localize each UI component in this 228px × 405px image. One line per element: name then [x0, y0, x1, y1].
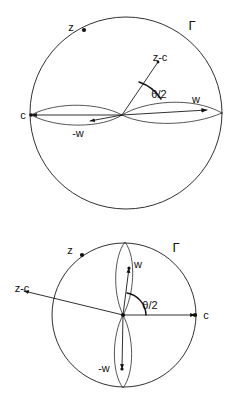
- bottom-label-z-minus-c: z-c: [15, 282, 30, 294]
- bottom-label-minus-w: -w: [98, 362, 110, 374]
- top-label-c: c: [20, 109, 26, 121]
- top-panel: z Γ z-c θ/2 w -w c: [20, 17, 222, 209]
- top-point-c-dot: [29, 113, 33, 117]
- top-right-lens: [122, 102, 222, 123]
- top-vector-w-arrow: [122, 110, 207, 115]
- top-label-theta-half: θ/2: [151, 88, 166, 100]
- bottom-point-c-dot: [193, 313, 197, 317]
- bottom-center-dot: [121, 313, 125, 317]
- bottom-vector-minus-w-arrow: [122, 315, 123, 369]
- bottom-label-w: w: [133, 258, 142, 270]
- bottom-point-z-dot: [80, 253, 84, 257]
- bottom-label-gamma: Γ: [172, 240, 179, 255]
- bottom-minus-w-tip-dot: [120, 367, 123, 370]
- bottom-vector-w-arrow: [123, 268, 129, 315]
- bottom-label-z: z: [67, 244, 73, 256]
- top-point-z-dot: [82, 28, 86, 32]
- figure-canvas: z Γ z-c θ/2 w -w c: [0, 0, 228, 405]
- top-label-z: z: [68, 21, 74, 33]
- bottom-w-tip-dot: [127, 266, 130, 269]
- bottom-label-c: c: [203, 309, 209, 321]
- top-label-minus-w: -w: [72, 127, 84, 139]
- top-label-gamma: Γ: [188, 18, 195, 33]
- bottom-vector-z-minus-c: [24, 291, 123, 315]
- bottom-panel: z Γ z-c θ/2 w -w c: [15, 240, 210, 388]
- top-label-w: w: [191, 93, 200, 105]
- geometry-figure: z Γ z-c θ/2 w -w c: [0, 0, 228, 405]
- top-label-z-minus-c: z-c: [153, 51, 168, 63]
- bottom-label-theta-half: θ/2: [142, 299, 157, 311]
